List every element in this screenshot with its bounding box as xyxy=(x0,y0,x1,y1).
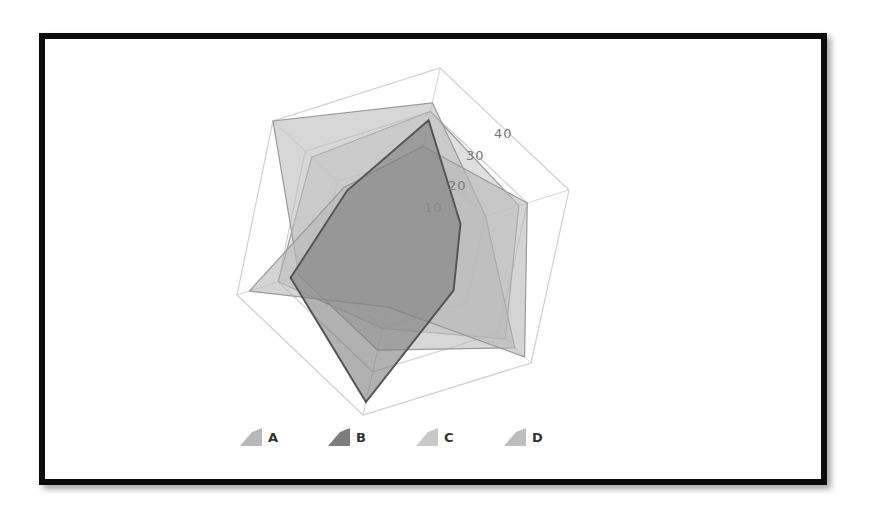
legend-item-d[interactable]: D xyxy=(502,424,543,450)
legend-item-b[interactable]: B xyxy=(326,424,366,450)
legend-item-c[interactable]: C xyxy=(414,424,454,450)
legend-label: C xyxy=(444,430,454,445)
radar-series xyxy=(249,103,527,402)
legend-label: B xyxy=(356,430,366,445)
legend-label: D xyxy=(532,430,543,445)
radial-tick-label: 10 xyxy=(424,200,443,215)
legend-label: A xyxy=(268,430,278,445)
legend: A B C D xyxy=(238,424,578,450)
legend-swatch-icon xyxy=(326,426,352,448)
legend-swatch-icon xyxy=(414,426,440,448)
radial-tick-label: 30 xyxy=(466,148,485,163)
legend-item-a[interactable]: A xyxy=(238,424,278,450)
swatch-a xyxy=(240,428,262,446)
legend-swatch-icon xyxy=(238,426,264,448)
radial-tick-label: 20 xyxy=(448,178,467,193)
radial-tick-label: 40 xyxy=(494,126,513,141)
legend-swatch-icon xyxy=(502,426,528,448)
